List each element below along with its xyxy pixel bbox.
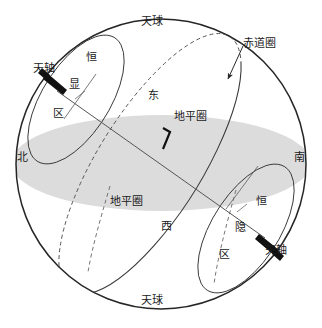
label-north: 北 [17, 152, 28, 164]
label-equator-circle: 赤道圈 [243, 38, 276, 50]
circumpolar-visible-leader [75, 91, 85, 99]
celestial-sphere-figure: 天球 天球 天轴 天轴 赤道圈 地平圈 地平圈 北 南 东 西 恒 显 区 恒 … [0, 0, 322, 328]
circumpolar-hidden-leader [237, 204, 247, 212]
label-south: 南 [294, 152, 305, 164]
label-circumpolar-visible-3: 区 [53, 108, 64, 120]
label-circumpolar-hidden-3: 区 [219, 249, 230, 261]
label-horizon-circle-lower: 地平圈 [110, 196, 143, 208]
label-celestial-sphere-top: 天球 [141, 16, 163, 28]
label-circumpolar-visible-2: 显 [69, 79, 80, 91]
label-horizon-circle-upper: 地平圈 [174, 111, 207, 123]
label-celestial-axis-lower: 天轴 [265, 245, 287, 257]
label-celestial-sphere-bottom: 天球 [141, 295, 163, 307]
label-east: 东 [148, 90, 159, 102]
label-celestial-axis-upper: 天轴 [33, 63, 55, 75]
label-circumpolar-hidden-1: 恒 [256, 196, 267, 208]
label-circumpolar-visible-1: 恒 [86, 52, 97, 64]
label-west: 西 [161, 221, 172, 233]
label-circumpolar-hidden-2: 隐 [235, 222, 246, 234]
